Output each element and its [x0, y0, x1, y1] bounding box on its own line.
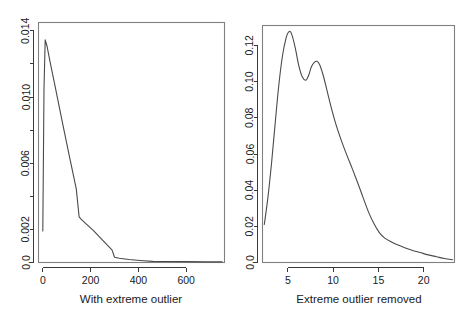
y-tick-label: 0.10 — [244, 71, 256, 92]
y-tick-label: 0.010 — [20, 84, 32, 110]
x-tick-label: 400 — [130, 274, 148, 286]
x-tick-label: 200 — [82, 274, 100, 286]
right-density-curve — [264, 31, 452, 259]
right-x-ticks — [288, 268, 424, 272]
x-tick-label: 20 — [418, 274, 430, 286]
left-x-ticks — [43, 268, 186, 272]
y-tick-label: 0.002 — [20, 216, 32, 242]
right-plot-box — [263, 26, 455, 263]
left-panel: 0200400600 0.00.0020.0060.0100.014 With … — [20, 18, 225, 305]
right-y-tick-labels: 0.00.020.040.060.080.100.12 — [244, 35, 256, 270]
chart-svg: 0200400600 0.00.0020.0060.0100.014 With … — [0, 0, 466, 319]
x-tick-label: 5 — [285, 274, 291, 286]
y-tick-label: 0.06 — [244, 144, 256, 165]
right-panel: 5101520 0.00.020.040.060.080.100.12 Extr… — [244, 26, 455, 306]
y-tick-label: 0.0 — [244, 255, 256, 270]
left-x-tick-labels: 0200400600 — [40, 274, 195, 286]
y-tick-label: 0.08 — [244, 107, 256, 128]
y-tick-label: 0.014 — [20, 18, 32, 44]
y-tick-label: 0.12 — [244, 35, 256, 56]
right-x-tick-labels: 5101520 — [285, 274, 430, 286]
y-tick-label: 0.0 — [20, 255, 32, 270]
x-tick-label: 0 — [40, 274, 46, 286]
y-tick-label: 0.006 — [20, 150, 32, 176]
x-tick-label: 10 — [327, 274, 339, 286]
x-tick-label: 15 — [373, 274, 385, 286]
y-tick-label: 0.04 — [244, 180, 256, 201]
figure-container: 0200400600 0.00.0020.0060.0100.014 With … — [0, 0, 466, 319]
y-tick-label: 0.02 — [244, 216, 256, 237]
left-density-curve — [43, 40, 222, 262]
x-tick-label: 600 — [177, 274, 195, 286]
left-y-tick-labels: 0.00.0020.0060.0100.014 — [20, 18, 32, 270]
left-x-axis-title: With extreme outlier — [80, 293, 182, 305]
right-x-axis-title: Extreme outlier removed — [296, 293, 421, 305]
